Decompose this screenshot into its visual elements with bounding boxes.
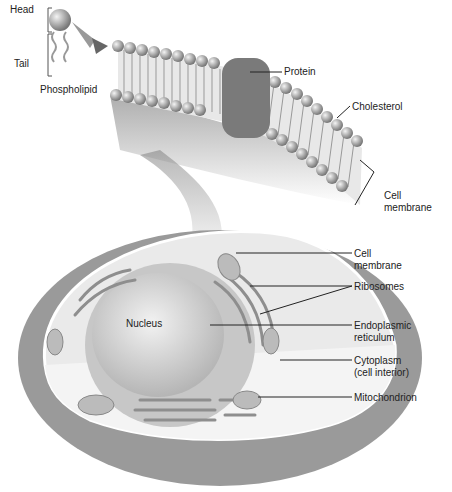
label-endoplasmic-reticulum: Endoplasmic reticulum (354, 320, 411, 344)
membrane-protein (222, 58, 270, 138)
label-tail: Tail (14, 58, 29, 70)
label-membrane-cell-membrane: Cell membrane (384, 190, 432, 214)
label-cell-membrane: Cell membrane (354, 248, 402, 272)
label-phospholipid: Phospholipid (40, 84, 97, 96)
label-protein: Protein (284, 66, 316, 78)
label-ribosomes: Ribosomes (354, 281, 404, 293)
phospholipid-icon (48, 8, 108, 76)
label-cytoplasm: Cytoplasm (cell interior) (354, 355, 409, 379)
label-nucleus: Nucleus (126, 318, 162, 330)
label-cholesterol: Cholesterol (352, 101, 403, 113)
label-head: Head (10, 4, 34, 16)
cell-diagram-illustration (0, 0, 452, 492)
label-mitochondrion: Mitochondrion (354, 392, 417, 404)
